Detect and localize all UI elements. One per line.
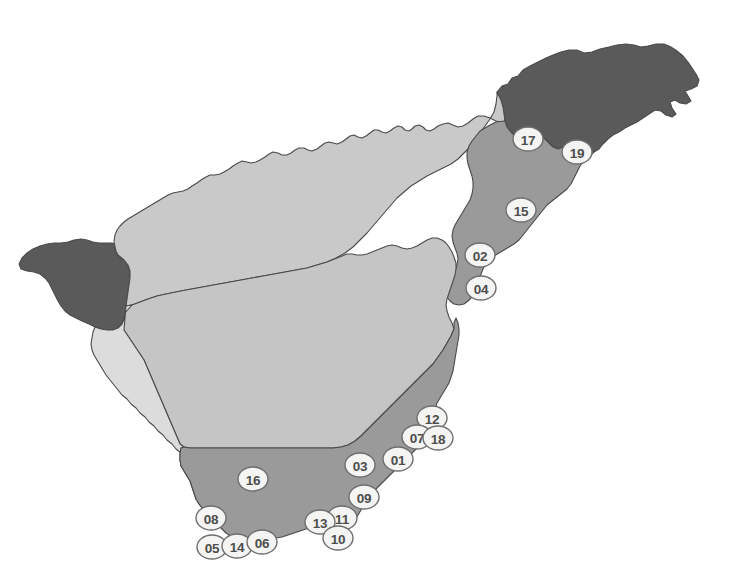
map-canvas: 17191502041207180103091113101608051406 xyxy=(0,0,733,583)
marker-label: 05 xyxy=(205,541,220,556)
zone-marker[interactable]: 19 xyxy=(562,140,592,164)
marker-label: 12 xyxy=(425,412,440,427)
marker-label: 18 xyxy=(431,432,446,447)
marker-label: 03 xyxy=(353,459,368,474)
marker-label: 13 xyxy=(313,516,328,531)
marker-label: 06 xyxy=(255,536,270,551)
zone-marker[interactable]: 06 xyxy=(247,530,277,554)
marker-label: 02 xyxy=(473,249,488,264)
zone-marker[interactable]: 03 xyxy=(345,453,375,477)
marker-label: 07 xyxy=(410,431,425,446)
zone-marker[interactable]: 09 xyxy=(349,485,379,509)
marker-label: 11 xyxy=(335,512,350,527)
marker-label: 19 xyxy=(570,146,585,161)
zone-marker[interactable]: 04 xyxy=(466,276,496,300)
marker-label: 17 xyxy=(521,133,536,148)
region-teno-dark[interactable] xyxy=(19,239,130,330)
zone-marker[interactable]: 01 xyxy=(383,447,413,471)
tenerife-map: 17191502041207180103091113101608051406 xyxy=(0,0,733,583)
marker-label: 01 xyxy=(391,453,406,468)
zone-marker[interactable]: 16 xyxy=(238,467,268,491)
marker-label: 04 xyxy=(474,282,489,297)
zone-marker[interactable]: 15 xyxy=(506,198,536,222)
zone-marker[interactable]: 02 xyxy=(465,243,495,267)
zone-marker[interactable]: 18 xyxy=(423,426,453,450)
marker-label: 09 xyxy=(357,491,372,506)
marker-label: 14 xyxy=(230,540,245,555)
zone-marker[interactable]: 17 xyxy=(513,127,543,151)
marker-label: 16 xyxy=(246,473,261,488)
marker-label: 10 xyxy=(331,532,346,547)
zone-marker[interactable]: 10 xyxy=(323,526,353,550)
marker-label: 15 xyxy=(514,204,529,219)
marker-label: 08 xyxy=(204,512,219,527)
zone-marker[interactable]: 08 xyxy=(196,506,226,530)
